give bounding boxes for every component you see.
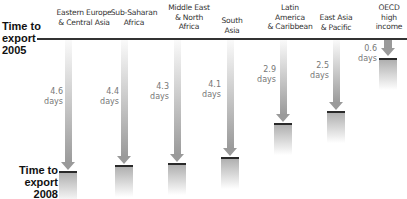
value-number: 2.5 <box>299 61 329 71</box>
end-label: Time to export 2008 <box>24 164 58 199</box>
bar <box>327 113 345 143</box>
category-line: high <box>349 13 407 23</box>
category-label: OECD high income <box>349 3 407 32</box>
arrow-shaft <box>174 40 181 155</box>
bar <box>115 167 133 197</box>
arrow-head-icon <box>223 148 237 156</box>
arrow-head-icon <box>329 102 343 110</box>
bar <box>379 60 397 90</box>
arrow-head-icon <box>117 156 131 164</box>
value-unit: days <box>33 97 63 107</box>
value-number: 4.6 <box>33 87 63 97</box>
value-unit: days <box>299 71 329 81</box>
value-number: 4.4 <box>89 87 119 97</box>
value-unit: days <box>89 97 119 107</box>
value-label: 4.1 days <box>191 80 221 100</box>
start-label-line: export <box>2 32 41 44</box>
value-number: 0.6 <box>347 44 377 54</box>
end-label-line: 2008 <box>24 188 58 199</box>
value-unit: days <box>191 90 221 100</box>
arrow-shaft <box>333 40 340 103</box>
arrow-head-icon <box>276 114 290 122</box>
category-line: Latin <box>250 3 330 13</box>
start-label-line: 2005 <box>2 44 41 56</box>
arrow-head-icon <box>381 48 395 56</box>
value-label: 0.6 days <box>347 44 377 64</box>
arrow-shaft <box>65 40 72 163</box>
baseline-2005 <box>37 38 407 40</box>
value-unit: days <box>139 92 169 102</box>
value-number: 4.1 <box>191 80 221 90</box>
category-line: OECD <box>349 3 407 13</box>
end-label-line: export <box>24 176 58 188</box>
bar <box>221 159 239 189</box>
value-label: 2.9 days <box>246 65 276 85</box>
arrow-shaft <box>384 40 392 48</box>
value-unit: days <box>347 54 377 64</box>
start-label: Time to export 2005 <box>2 20 41 56</box>
value-label: 4.6 days <box>33 87 63 107</box>
value-unit: days <box>246 75 276 85</box>
bar <box>168 165 186 195</box>
arrow-shaft <box>280 40 287 115</box>
arrow-head-icon <box>170 154 184 162</box>
arrow-shaft <box>121 40 128 157</box>
arrow-head-icon <box>61 162 75 170</box>
end-label-line: Time to <box>12 164 58 176</box>
value-number: 2.9 <box>246 65 276 75</box>
bar <box>274 125 292 155</box>
value-label: 4.3 days <box>139 82 169 102</box>
value-label: 4.4 days <box>89 87 119 107</box>
value-number: 4.3 <box>139 82 169 92</box>
arrow-shaft <box>227 40 234 149</box>
start-label-line: Time to <box>2 20 41 32</box>
category-line: income <box>349 22 407 32</box>
value-label: 2.5 days <box>299 61 329 81</box>
category-line: Middle East <box>149 3 229 13</box>
bar <box>59 173 77 199</box>
